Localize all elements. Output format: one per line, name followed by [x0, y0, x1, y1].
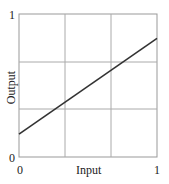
- y-tick-min: 0: [9, 152, 15, 164]
- plot-area: [0, 0, 169, 184]
- line-chart: 1 0 0 1 Input Output: [0, 0, 169, 184]
- x-tick-max: 1: [154, 164, 160, 176]
- y-axis-label: Output: [4, 63, 19, 113]
- data-line: [19, 38, 157, 134]
- x-axis-label: Input: [76, 164, 101, 176]
- x-tick-min: 0: [17, 164, 23, 176]
- y-tick-max: 1: [9, 9, 15, 21]
